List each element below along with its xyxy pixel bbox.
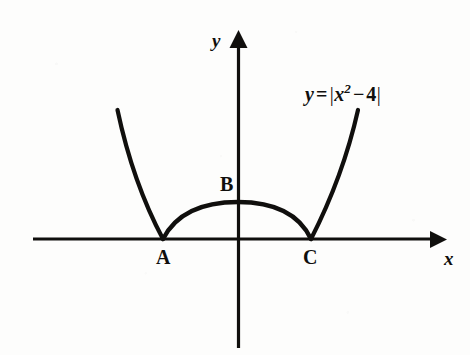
graph-figure: y x A B C y=|x2−4| bbox=[0, 0, 470, 355]
point-label-b: B bbox=[220, 174, 234, 194]
equation-equals: = bbox=[314, 83, 329, 105]
equation-exponent: 2 bbox=[344, 81, 351, 96]
point-label-c: C bbox=[303, 247, 318, 267]
equation-base: x bbox=[334, 83, 344, 105]
equation-constant: 4 bbox=[366, 83, 376, 105]
equation-close-bar: | bbox=[376, 83, 381, 105]
equation-lhs: y bbox=[305, 83, 314, 105]
curve-equation-label: y=|x2−4| bbox=[305, 82, 381, 104]
point-label-a: A bbox=[156, 247, 171, 267]
x-axis-label: x bbox=[444, 249, 454, 268]
equation-operator: − bbox=[351, 83, 366, 105]
coordinate-plane bbox=[0, 0, 470, 355]
y-axis-label: y bbox=[212, 31, 220, 50]
curve-right-branch bbox=[311, 110, 358, 239]
y-axis-arrowhead bbox=[230, 30, 248, 48]
curve-left-branch bbox=[118, 110, 164, 239]
x-axis-arrowhead bbox=[430, 231, 447, 248]
